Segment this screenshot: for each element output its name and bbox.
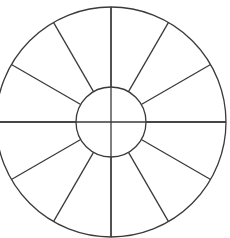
center-cross bbox=[0, 7, 226, 237]
spoke-line bbox=[129, 22, 169, 91]
spoke-line bbox=[141, 65, 210, 105]
spoke-line bbox=[11, 140, 80, 180]
spoke-line bbox=[11, 65, 80, 105]
spoke-line bbox=[54, 22, 94, 91]
spoke-line bbox=[141, 140, 210, 180]
segmented-wheel-diagram bbox=[0, 0, 230, 238]
spoke-line bbox=[129, 152, 169, 221]
spoke-line bbox=[54, 152, 94, 221]
